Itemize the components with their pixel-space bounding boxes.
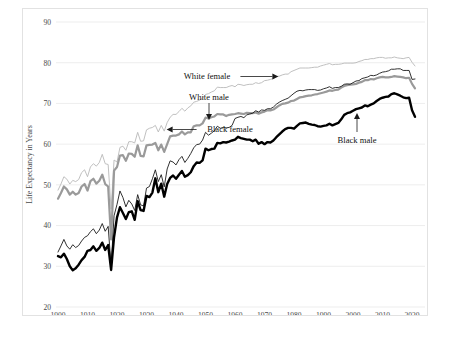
chart-plot-frame: 2030405060708090190019101920193019401950… [22,8,428,316]
x-tick-label-2020: 2020 [404,311,419,315]
x-tick-label-1960: 1960 [227,311,242,315]
series-label-text: White female [184,71,231,81]
y-tick-label-60: 60 [43,140,51,149]
x-tick-label-1900: 1900 [50,311,65,315]
y-axis-title: Life Expectancy in Years [25,125,34,203]
x-tick-label-2010: 2010 [375,311,390,315]
series-label-text: White male [189,92,229,102]
y-tick-label-80: 80 [43,59,51,68]
series-label-text: Black male [338,135,377,145]
x-tick-label-1920: 1920 [109,311,124,315]
leader-arrowhead [167,127,173,133]
x-tick-label-2000: 2000 [345,311,360,315]
series-line-black-male [58,93,415,270]
leader-arrowhead [272,74,278,80]
x-tick-label-1930: 1930 [139,311,154,315]
y-tick-label-50: 50 [43,181,51,190]
x-tick-label-1940: 1940 [168,311,183,315]
line-chart: 2030405060708090190019101920193019401950… [23,9,427,315]
leader-arrowhead [354,113,360,119]
annotation-white-male: White male [189,92,229,120]
life-expectancy-figure: 2030405060708090190019101920193019401950… [0,0,450,338]
x-tick-label-1970: 1970 [257,311,272,315]
y-tick-label-90: 90 [43,18,51,27]
x-tick-label-1910: 1910 [80,311,95,315]
series-line-white-male [58,76,415,239]
y-tick-label-70: 70 [43,99,51,108]
x-tick-label-1990: 1990 [316,311,331,315]
y-tick-label-40: 40 [43,221,51,230]
annotation-white-female: White female [184,71,279,81]
y-tick-label-30: 30 [43,262,51,271]
x-tick-label-1950: 1950 [198,311,213,315]
x-tick-label-1980: 1980 [286,311,301,315]
series-label-text: Black female [207,124,253,134]
